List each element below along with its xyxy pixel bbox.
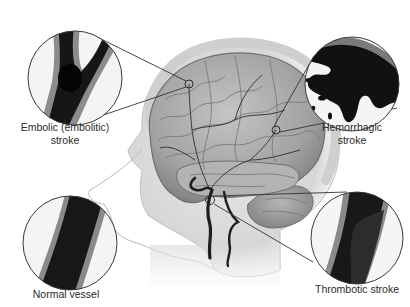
- thrombotic-stroke-magnifier: [311, 188, 403, 292]
- thrombotic-stroke-label: Thrombotic stroke: [300, 283, 410, 296]
- embolic-label-line1: Embolic (embolitic): [5, 121, 125, 134]
- normal-vessel-label: Normal vessel: [16, 288, 116, 301]
- embolic-label-line2: stroke: [5, 134, 125, 147]
- normal-vessel-magnifier: [23, 190, 117, 300]
- embolic-stroke-label: Embolic (embolitic) stroke: [5, 121, 125, 146]
- diagram-canvas: [0, 0, 410, 307]
- hemorrhagic-label-line2: stroke: [312, 134, 392, 147]
- stroke-diagram: Embolic (embolitic) stroke Hemorrhagic s…: [0, 0, 410, 307]
- embolic-stroke-magnifier: [28, 25, 125, 135]
- hemorrhagic-label-line1: Hemorrhagic: [312, 121, 392, 134]
- hemorrhagic-stroke-label: Hemorrhagic stroke: [312, 121, 392, 146]
